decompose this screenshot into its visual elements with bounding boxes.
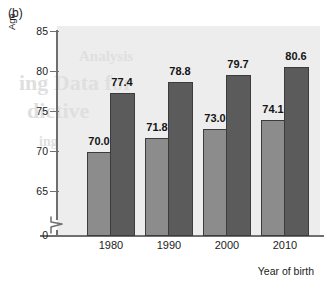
bar-1990-light[interactable] — [145, 138, 169, 236]
bar-value-2010-light: 74.1 — [253, 103, 293, 115]
x-tick-label-1990: 1990 — [149, 239, 189, 251]
bar-1990-dark[interactable] — [168, 82, 193, 236]
bar-value-2010-dark: 80.6 — [276, 50, 316, 62]
bar-1980-dark[interactable] — [110, 93, 135, 236]
bar-value-1990-light: 71.8 — [137, 121, 177, 133]
figure-panel-b: (b) Analysis ing Data for dictive ing 85… — [0, 0, 326, 282]
x-tick-label-2010: 2010 — [265, 239, 305, 251]
bar-2010-dark[interactable] — [284, 67, 309, 236]
bar-1980-light[interactable] — [87, 152, 111, 236]
bar-value-1980-light: 70.0 — [79, 135, 119, 147]
bar-value-2000-light: 73.0 — [195, 112, 235, 124]
bar-value-1980-dark: 77.4 — [102, 76, 142, 88]
x-tick-label-2000: 2000 — [207, 239, 247, 251]
bar-2000-light[interactable] — [203, 129, 227, 236]
x-tick-label-1980: 1980 — [91, 239, 131, 251]
bar-2010-light[interactable] — [261, 120, 285, 236]
bar-value-1990-dark: 78.8 — [160, 65, 200, 77]
bar-value-2000-dark: 79.7 — [218, 58, 258, 70]
bar-2000-dark[interactable] — [226, 75, 251, 236]
bars-layer: 70.0 77.4 1980 71.8 78.8 1990 73.0 79.7 … — [0, 0, 326, 282]
